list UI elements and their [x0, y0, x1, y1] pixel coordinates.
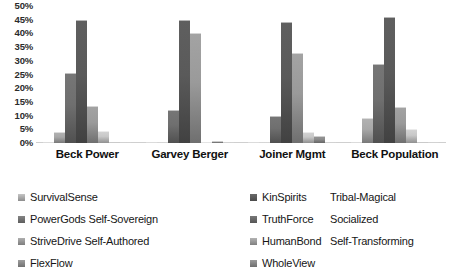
bar [351, 142, 362, 143]
bar [120, 142, 131, 143]
legend-label: HumanBond [262, 235, 321, 247]
bar [406, 129, 417, 143]
legend-item[interactable]: Socialized [330, 208, 450, 230]
legend-item[interactable]: TruthForce [250, 208, 328, 230]
legend-label: SurvivalSense [30, 191, 98, 203]
legend-swatch-icon [18, 260, 25, 267]
legend-item[interactable]: HumanBond [250, 230, 328, 252]
bar [223, 142, 234, 143]
x-axis-label: Beck Population [344, 148, 447, 166]
bar [109, 142, 120, 143]
legend-item[interactable]: Self-Transforming [330, 230, 450, 252]
bar [43, 142, 54, 143]
bar [259, 142, 270, 143]
legend-item[interactable]: Tribal-Magical [330, 186, 450, 208]
legend-label: TruthForce [262, 213, 313, 225]
legend-item[interactable]: PowerGods Self-Sovereign [18, 208, 248, 230]
legend-swatch-icon [18, 238, 25, 245]
bar [303, 132, 314, 143]
bar-group [241, 6, 344, 143]
legend-item[interactable]: SurvivalSense [18, 186, 248, 208]
y-axis-tick: 20% [15, 83, 33, 92]
y-axis-tick: 50% [15, 1, 33, 10]
bar [362, 118, 373, 143]
legend-column-2: KinSpiritsTruthForceHumanBondWholeView [250, 186, 328, 274]
legend-label: FlexFlow [30, 257, 72, 269]
y-axis-tick: 25% [15, 70, 33, 79]
x-axis-label: Garvey Berger [139, 148, 242, 166]
bar [270, 116, 281, 143]
plot-area: 50%45%40%35%30%25%20%15%10%5%0% Beck Pow… [0, 0, 450, 166]
legend-label: KinSpirits [262, 191, 306, 203]
y-axis-tick: 35% [15, 42, 33, 51]
bar [428, 142, 439, 143]
y-axis-tick: 0% [20, 138, 33, 147]
legend-swatch-icon [18, 216, 25, 223]
bar [417, 142, 428, 143]
legend-item[interactable]: KinSpirits [250, 186, 328, 208]
bar [281, 22, 292, 143]
y-axis-tick: 15% [15, 97, 33, 106]
y-axis-tick: 10% [15, 111, 33, 120]
bar [201, 142, 212, 143]
legend-swatch-icon [250, 238, 257, 245]
legend-item[interactable]: StriveDrive Self-Authored [18, 230, 248, 252]
chart-legend: SurvivalSensePowerGods Self-SovereignStr… [0, 186, 450, 277]
bar [292, 53, 303, 143]
bar [168, 110, 179, 143]
bar [54, 132, 65, 143]
bar [157, 142, 168, 143]
legend-label: Socialized [330, 213, 378, 225]
y-axis-tick: 40% [15, 28, 33, 37]
legend-swatch-icon [250, 194, 257, 201]
bar [146, 142, 157, 143]
x-axis-label: Joiner Mgmt [241, 148, 344, 166]
legend-label: PowerGods Self-Sovereign [30, 213, 158, 225]
bar [190, 33, 201, 143]
bar [65, 73, 76, 143]
legend-label: WholeView [262, 257, 315, 269]
bar [373, 64, 384, 144]
bar-chart: 50%45%40%35%30%25%20%15%10%5%0% Beck Pow… [0, 0, 450, 277]
legend-swatch-icon [18, 194, 25, 201]
legend-column-1: SurvivalSensePowerGods Self-SovereignStr… [18, 186, 248, 274]
legend-column-3: Tribal-MagicalSocializedSelf-Transformin… [330, 186, 450, 252]
bar-group [344, 6, 447, 143]
bar [98, 131, 109, 143]
bar [395, 107, 406, 143]
y-axis-tick: 45% [15, 15, 33, 24]
y-axis-tick: 5% [20, 124, 33, 133]
bar-group [139, 6, 242, 143]
bar-group [36, 6, 139, 143]
bar [248, 142, 259, 143]
legend-label: StriveDrive Self-Authored [30, 235, 149, 247]
bar [76, 20, 87, 143]
bar [87, 106, 98, 143]
bar [212, 141, 223, 143]
bar-groups [36, 6, 446, 143]
bar [325, 142, 336, 143]
x-axis-labels: Beck PowerGarvey BergerJoiner MgmtBeck P… [36, 148, 446, 166]
legend-item[interactable]: FlexFlow [18, 252, 248, 274]
bar [384, 17, 395, 143]
legend-item[interactable]: WholeView [250, 252, 328, 274]
y-axis-tick: 30% [15, 56, 33, 65]
y-axis: 50%45%40%35%30%25%20%15%10%5%0% [0, 0, 34, 150]
bar [179, 20, 190, 143]
x-axis-label: Beck Power [36, 148, 139, 166]
legend-label: Self-Transforming [330, 235, 414, 247]
legend-swatch-icon [250, 260, 257, 267]
bar [314, 136, 325, 143]
legend-label: Tribal-Magical [330, 191, 396, 203]
legend-swatch-icon [250, 216, 257, 223]
